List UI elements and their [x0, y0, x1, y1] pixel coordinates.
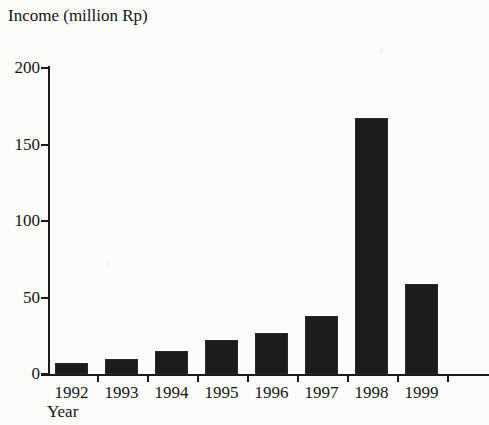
x-tick-mark: [147, 374, 149, 382]
x-tick-mark: [297, 374, 299, 382]
y-tick-label: 50: [0, 289, 40, 306]
x-tick-mark: [447, 374, 449, 382]
y-tick-mark: [41, 373, 49, 375]
x-tick-mark: [197, 374, 199, 382]
x-tick-label: 1999: [392, 384, 452, 402]
bar-1996: [255, 333, 288, 374]
bar-chart-plot-area: 050100150200 199219931994199519961997199…: [0, 0, 489, 425]
bar-1998: [355, 118, 388, 374]
bar-1997: [305, 316, 338, 374]
x-tick-mark: [397, 374, 399, 382]
bar-1995: [205, 340, 238, 374]
x-axis-title: Year: [47, 402, 78, 421]
bar-1994: [155, 351, 188, 374]
bar-1999: [405, 284, 438, 374]
x-tick-mark: [97, 374, 99, 382]
y-tick-label: 100: [0, 212, 40, 229]
x-axis-line: [41, 374, 489, 376]
x-tick-mark: [247, 374, 249, 382]
y-tick-label: 200: [0, 59, 40, 76]
y-tick-mark: [41, 220, 49, 222]
y-tick-mark: [41, 67, 49, 69]
x-tick-mark: [347, 374, 349, 382]
y-tick-mark: [41, 297, 49, 299]
chart-page: Income (million Rp) 050100150200 1992199…: [0, 0, 489, 425]
bar-1993: [105, 359, 138, 374]
bar-1992: [55, 363, 88, 374]
y-tick-label: 150: [0, 136, 40, 153]
y-tick-label: 0: [0, 365, 40, 382]
y-tick-mark: [41, 144, 49, 146]
